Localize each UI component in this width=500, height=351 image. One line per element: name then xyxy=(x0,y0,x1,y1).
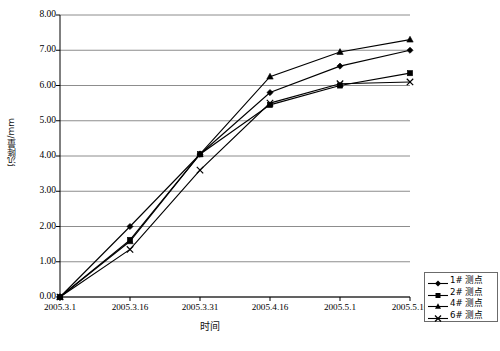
series-marker-2 xyxy=(407,71,412,76)
x-tick-label: 2005.3.16 xyxy=(112,302,149,312)
y-tick-label: 2.00 xyxy=(22,222,56,232)
series-marker-3 xyxy=(407,36,413,42)
x-axis-title: 时间 xyxy=(0,318,420,333)
x-tick-label: 2005.4.16 xyxy=(252,302,289,312)
series-line-4 xyxy=(60,82,410,297)
legend-label: 4# 测点 xyxy=(449,299,483,308)
y-tick-label: 1.00 xyxy=(22,257,56,267)
y-tick-label: 6.00 xyxy=(22,81,56,91)
legend-marker-cross-icon xyxy=(427,310,449,321)
series-marker-1 xyxy=(407,47,413,53)
x-tick-label: 2005.3.1 xyxy=(44,302,76,312)
y-tick-label: 0.00 xyxy=(22,292,56,302)
series-line-3 xyxy=(60,40,410,297)
legend-item-1: 1# 测点 xyxy=(427,275,495,287)
legend-item-3: 4# 测点 xyxy=(427,298,495,310)
y-tick-label: 5.00 xyxy=(22,116,56,126)
legend-label: 1# 测点 xyxy=(449,276,483,285)
legend-marker-triangle-icon xyxy=(427,298,449,309)
settlement-line-chart: 沉降量/mm 0.001.002.003.004.005.006.007.008… xyxy=(0,0,500,351)
x-tick-label: 2005.5.1 xyxy=(324,302,356,312)
legend-label: 2# 测点 xyxy=(449,288,483,297)
chart-legend: 1# 测点2# 测点4# 测点6# 测点 xyxy=(424,272,498,322)
legend-item-4: 6# 测点 xyxy=(427,310,495,322)
legend-item-2: 2# 测点 xyxy=(427,287,495,299)
series-marker-1 xyxy=(337,63,343,69)
x-tick-label: 2005.3.31 xyxy=(182,302,219,312)
x-axis-tick-labels: 2005.3.12005.3.162005.3.312005.4.162005.… xyxy=(0,302,420,316)
y-tick-label: 7.00 xyxy=(22,45,56,55)
legend-marker-diamond-icon xyxy=(427,275,449,286)
series-line-2 xyxy=(60,73,410,297)
y-tick-label: 4.00 xyxy=(22,151,56,161)
series-line-1 xyxy=(60,50,410,297)
y-axis-tick-labels: 0.001.002.003.004.005.006.007.008.00 xyxy=(18,0,56,351)
y-tick-label: 3.00 xyxy=(22,186,56,196)
y-tick-label: 8.00 xyxy=(22,10,56,20)
legend-marker-square-icon xyxy=(427,287,449,298)
legend-label: 6# 测点 xyxy=(449,311,483,320)
x-tick-label: 2005.5.16 xyxy=(392,302,429,312)
